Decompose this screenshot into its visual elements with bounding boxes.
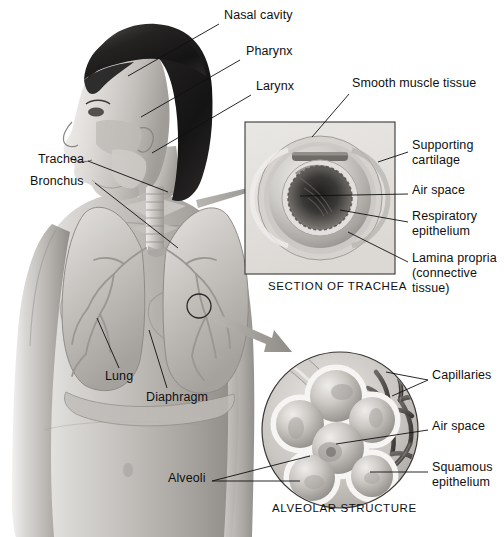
caption-alveolar-structure: ALVEOLAR STRUCTURE [272,502,417,514]
lung-left [62,207,145,390]
label-nasal-cavity: Nasal cavity [224,8,293,23]
label-supporting-cartilage: Supporting cartilage [412,138,473,168]
caption-section-of-trachea: SECTION OF TRACHEA [268,280,407,292]
label-respiratory-epithelium: Respiratory epithelium [412,209,477,239]
label-larynx: Larynx [256,79,294,94]
label-bronchus: Bronchus [30,174,84,189]
label-squamous-epithelium: Squamous epithelium [432,460,493,490]
label-alveolar-air-space: Air space [432,419,485,434]
label-alveoli: Alveoli [168,471,206,486]
label-lung: Lung [105,369,133,384]
label-smooth-muscle-tissue: Smooth muscle tissue [352,76,476,91]
human-figure-artwork [12,24,254,537]
lung-right [163,208,248,393]
label-lamina-propria: Lamina propria (connective tissue) [412,251,497,295]
label-capillaries: Capillaries [432,368,491,383]
respiratory-system-figure: Nasal cavity Pharynx Larynx Trachea Bron… [0,0,504,537]
eye [88,107,104,116]
alveolar-structure-inset [262,338,422,508]
label-diaphragm: Diaphragm [146,390,208,405]
label-trachea: Trachea [38,152,84,167]
label-air-space: Air space [412,183,465,198]
trachea-section-inset [245,122,395,274]
label-pharynx: Pharynx [246,44,293,59]
